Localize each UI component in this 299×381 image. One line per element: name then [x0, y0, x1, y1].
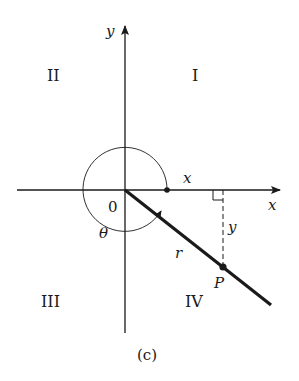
- y-segment-label: y: [227, 218, 237, 236]
- right-angle-marker: [213, 190, 223, 200]
- theta-label: θ: [99, 224, 108, 242]
- arc-start-point: [164, 187, 170, 193]
- x-axis-label: x: [268, 196, 277, 214]
- origin-label: 0: [108, 198, 118, 216]
- point-p: [219, 263, 226, 270]
- quadrant-label-iv: IV: [185, 292, 203, 311]
- figure-caption: (c): [137, 346, 157, 364]
- y-axis-label: y: [105, 22, 115, 40]
- quadrant-label-iii: III: [41, 292, 60, 311]
- radius-label: r: [175, 244, 183, 262]
- quadrant-label-ii: II: [47, 66, 60, 85]
- point-p-label: P: [213, 274, 225, 292]
- quadrant-label-i: I: [192, 66, 198, 85]
- terminal-ray: [125, 190, 271, 305]
- x-segment-label: x: [183, 169, 192, 187]
- trig-angle-diagram: y x 0 II I III IV x θ r y P (c): [0, 0, 299, 381]
